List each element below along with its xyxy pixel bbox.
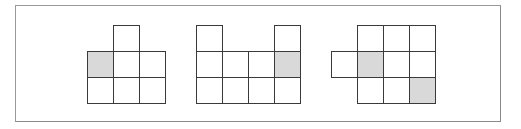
grid-cell xyxy=(383,25,410,52)
grid-cell xyxy=(87,77,114,104)
grid-cell xyxy=(409,51,436,78)
grid-cell xyxy=(383,51,410,78)
grid-cell xyxy=(196,77,223,104)
shaded-grid-cell xyxy=(409,77,436,104)
grid-cell xyxy=(222,51,249,78)
shaded-grid-cell xyxy=(87,51,114,78)
grid-cell xyxy=(222,77,249,104)
grid-cell xyxy=(113,51,140,78)
grid-cell xyxy=(274,25,301,52)
grid-cell xyxy=(409,25,436,52)
grid-cell xyxy=(113,25,140,52)
grid-cell xyxy=(196,25,223,52)
grid-cell xyxy=(357,25,384,52)
grid-cell xyxy=(357,77,384,104)
grid-cell xyxy=(248,77,275,104)
shaded-grid-cell xyxy=(357,51,384,78)
grid-cell xyxy=(331,51,358,78)
grid-cell xyxy=(113,77,140,104)
shaded-grid-cell xyxy=(274,51,301,78)
grid-cell xyxy=(196,51,223,78)
grid-cell xyxy=(139,51,166,78)
grid-cell xyxy=(383,77,410,104)
grid-cell xyxy=(274,77,301,104)
grid-cell xyxy=(248,51,275,78)
grid-cell xyxy=(139,77,166,104)
